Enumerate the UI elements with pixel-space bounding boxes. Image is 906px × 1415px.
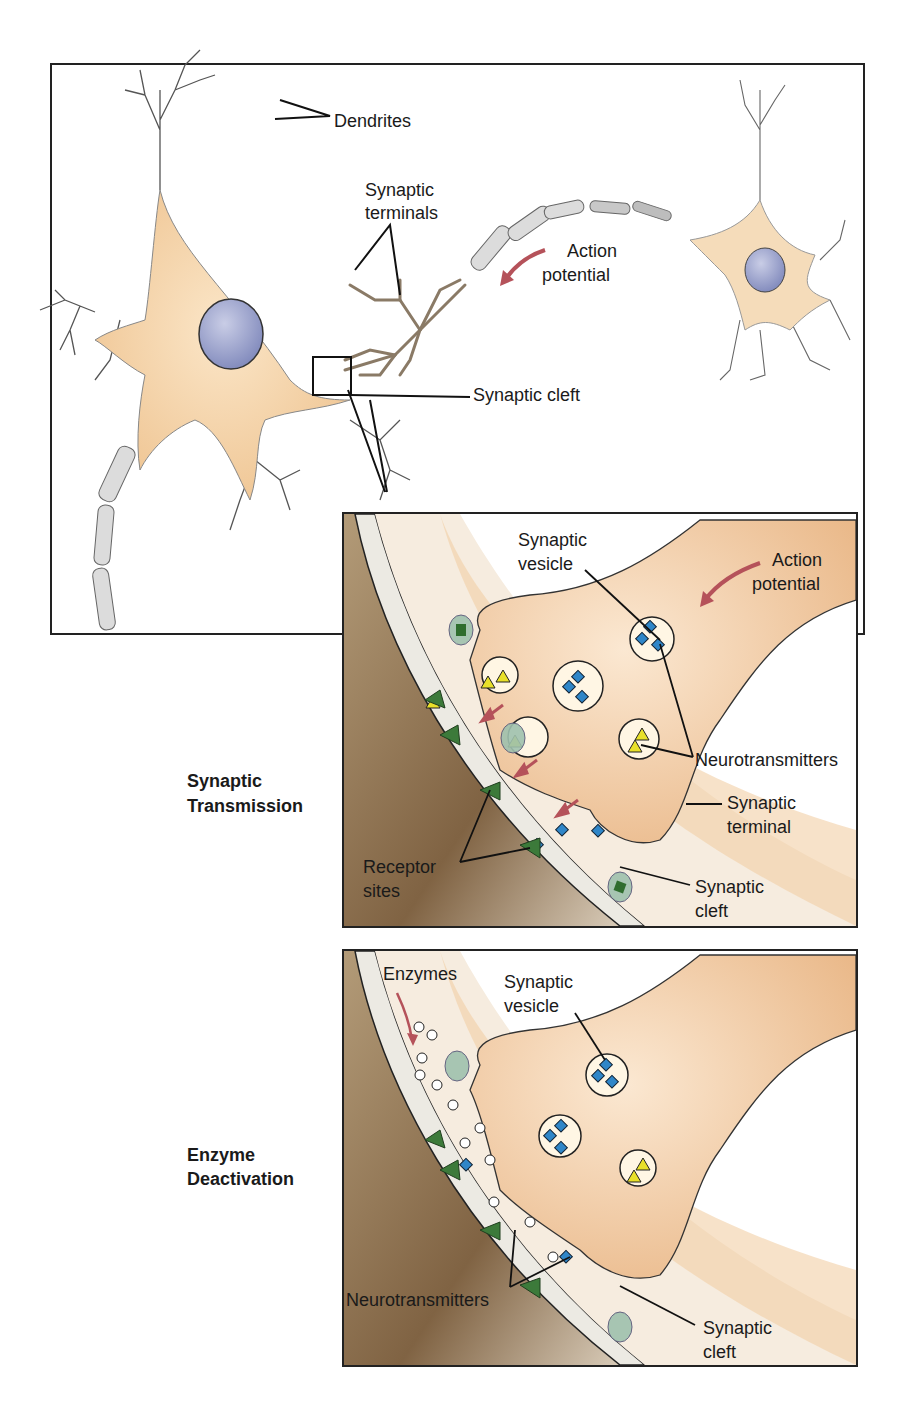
p1-label-neurotransmitters: Neurotransmitters xyxy=(695,750,838,771)
p1-label-receptor-sites-l1: Receptor xyxy=(363,857,436,878)
p1-label-synaptic-cleft-l2: cleft xyxy=(695,901,728,922)
title-synaptic-transmission-l1: Synaptic xyxy=(187,770,262,793)
terminal-branches xyxy=(345,280,465,375)
title-enzyme-deactivation-l1: Enzyme xyxy=(187,1144,255,1167)
right-nucleus xyxy=(745,248,785,292)
p2-label-synaptic-vesicle-l1: Synaptic xyxy=(504,972,573,993)
label-action-potential-l2: potential xyxy=(542,265,610,286)
p1-label-synaptic-vesicle-l1: Synaptic xyxy=(518,530,587,551)
label-synaptic-cleft: Synaptic cleft xyxy=(473,385,580,406)
p2-label-neurotransmitters: Neurotransmitters xyxy=(346,1290,489,1311)
p2-label-enzymes: Enzymes xyxy=(383,964,457,985)
main-nucleus xyxy=(199,299,263,369)
title-synaptic-transmission-l2: Transmission xyxy=(187,795,303,818)
p1-label-receptor-sites-l2: sites xyxy=(363,881,400,902)
p1-label-synaptic-terminal-l2: terminal xyxy=(727,817,791,838)
label-synaptic-terminals-l2: terminals xyxy=(365,203,438,224)
p1-label-synaptic-cleft-l1: Synaptic xyxy=(695,877,764,898)
overview-leader-lines xyxy=(275,100,470,492)
neuron-illustration xyxy=(0,0,906,1415)
main-axon xyxy=(92,444,138,631)
p1-label-action-potential-l1: Action xyxy=(772,550,822,571)
title-enzyme-deactivation-l2: Deactivation xyxy=(187,1168,294,1191)
p1-label-synaptic-vesicle-l2: vesicle xyxy=(518,554,573,575)
p1-label-synaptic-terminal-l1: Synaptic xyxy=(727,793,796,814)
p2-label-synaptic-vesicle-l2: vesicle xyxy=(504,996,559,1017)
action-potential-arrow xyxy=(505,250,545,280)
p2-label-synaptic-cleft-l2: cleft xyxy=(703,1342,736,1363)
label-synaptic-terminals-l1: Synaptic xyxy=(365,180,434,201)
label-action-potential-l1: Action xyxy=(567,241,617,262)
p1-label-action-potential-l2: potential xyxy=(752,574,820,595)
label-dendrites: Dendrites xyxy=(334,111,411,132)
zoom-box xyxy=(313,357,351,395)
p2-label-synaptic-cleft-l1: Synaptic xyxy=(703,1318,772,1339)
